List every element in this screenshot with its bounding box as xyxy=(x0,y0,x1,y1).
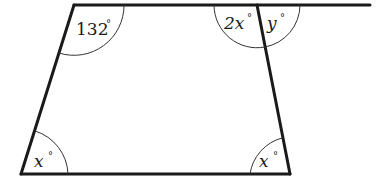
angle-label-bottom-right: x ° xyxy=(259,150,278,171)
trapezium-diagram: 132 ° 2x ° y ° x ° x ° xyxy=(0,0,384,195)
svg-text:2x: 2x xyxy=(223,13,245,33)
angle-label-top-left: 132 ° xyxy=(76,18,111,39)
left-edge xyxy=(21,5,74,174)
svg-text:°: ° xyxy=(273,150,278,161)
angle-label-bottom-left: x ° xyxy=(34,150,53,171)
svg-text:y: y xyxy=(266,13,277,33)
svg-text:x: x xyxy=(34,151,44,171)
angle-label-top-right-interior: 2x ° xyxy=(223,12,252,33)
svg-text:x: x xyxy=(259,151,269,171)
angle-label-top-right-exterior: y ° xyxy=(266,12,285,33)
svg-text:°: ° xyxy=(106,18,111,29)
svg-text:°: ° xyxy=(280,12,285,23)
svg-text:132: 132 xyxy=(76,19,108,39)
svg-text:°: ° xyxy=(247,12,252,23)
svg-text:°: ° xyxy=(48,150,53,161)
